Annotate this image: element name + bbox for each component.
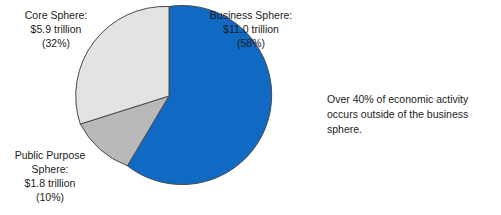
pie-label-public-purpose-sphere: Public Purpose Sphere: $1.8 trillion (10… (0, 148, 100, 204)
business-sphere-title: Business Sphere: (186, 8, 316, 22)
business-sphere-percent: (58%) (186, 36, 316, 50)
pie-label-core-sphere: Core Sphere: $5.9 trillion (32%) (4, 8, 108, 50)
core-sphere-value: $5.9 trillion (4, 22, 108, 36)
pie-chart-figure: Core Sphere: $5.9 trillion (32%) Busines… (0, 0, 501, 215)
core-sphere-title: Core Sphere: (4, 8, 108, 22)
public-purpose-title-line2: Sphere: (0, 162, 100, 176)
chart-annotation-text: Over 40% of economic activity occurs out… (327, 92, 499, 137)
pie-label-business-sphere: Business Sphere: $11.0 trillion (58%) (186, 8, 316, 50)
public-purpose-percent: (10%) (0, 190, 100, 204)
business-sphere-value: $11.0 trillion (186, 22, 316, 36)
core-sphere-percent: (32%) (4, 36, 108, 50)
public-purpose-title-line1: Public Purpose (0, 148, 100, 162)
public-purpose-value: $1.8 trillion (0, 176, 100, 190)
